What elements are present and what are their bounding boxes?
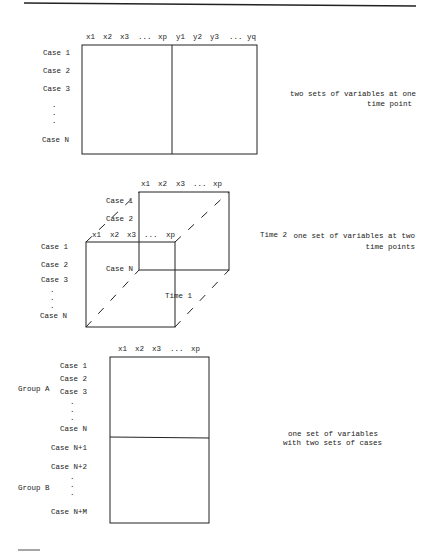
col-label: x3	[152, 346, 161, 354]
row-label: Case 1	[41, 244, 68, 252]
caption: time points	[365, 244, 415, 252]
col-label: ...	[193, 181, 207, 189]
caption: time point	[367, 101, 412, 109]
row-label: Case 3	[43, 86, 70, 94]
col-label: x1	[86, 34, 95, 42]
row-label: Case N+2	[51, 464, 87, 472]
caption: with two sets of cases	[283, 440, 382, 448]
row-label: Case 1	[106, 198, 133, 206]
col-label: y2	[193, 34, 202, 42]
row-label: Case N	[40, 313, 67, 321]
ellipsis: .	[50, 303, 55, 311]
col-label: ...	[229, 34, 243, 42]
group-b-label: Group B	[18, 485, 50, 493]
time1-label: Time 1	[165, 293, 192, 301]
row-label: Case 2	[43, 68, 70, 76]
ellipsis: .	[52, 118, 57, 126]
col-label: xp	[166, 232, 175, 240]
col-label: xp	[158, 34, 167, 42]
row-label: Case 3	[41, 277, 68, 285]
row-label: Case 2	[41, 262, 68, 270]
col-label: x2	[103, 34, 112, 42]
caption: one set of variables at two	[293, 233, 415, 241]
row-label: Case 3	[60, 389, 87, 397]
col-label: x2	[158, 181, 167, 189]
ellipsis: .	[70, 490, 75, 498]
row-label: Case 1	[60, 363, 87, 371]
col-label: x2	[135, 346, 144, 354]
row-label: Case N	[106, 266, 133, 274]
caption: one set of variables	[288, 431, 378, 439]
row-label: Case N	[60, 426, 87, 434]
col-label: xp	[213, 181, 222, 189]
col-label: x3	[120, 34, 129, 42]
col-label: x2	[110, 232, 119, 240]
group-a-label: Group A	[18, 386, 50, 394]
time2-label: Time 2	[260, 232, 287, 240]
col-label: ...	[138, 34, 152, 42]
row-label: Case 2	[60, 376, 87, 384]
ellipsis: .	[70, 415, 75, 423]
col-label: x1	[118, 346, 127, 354]
col-label: x1	[92, 232, 101, 240]
col-label: ...	[170, 346, 184, 354]
col-label: x3	[127, 232, 136, 240]
col-label: x3	[176, 181, 185, 189]
row-label: Case N+1	[51, 445, 87, 453]
col-label: yq	[247, 34, 256, 42]
col-label: ...	[144, 232, 158, 240]
row-label: Case 1	[43, 50, 70, 58]
col-label: xp	[191, 346, 200, 354]
col-label: x1	[141, 181, 150, 189]
caption: two sets of variables at one	[290, 91, 416, 99]
col-label: y1	[176, 34, 185, 42]
row-label: Case N	[42, 137, 69, 145]
row-label: Case N+M	[51, 509, 87, 517]
col-label: y3	[210, 34, 219, 42]
row-label: Case 2	[106, 216, 133, 224]
